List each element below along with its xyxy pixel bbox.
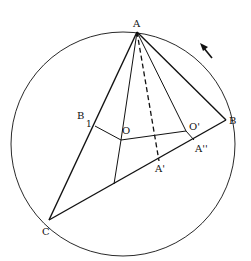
label-B1: B [77,110,84,121]
label-O: O [122,125,130,136]
label-C: C [42,226,50,237]
segment-O-prime-A-double-prime [186,131,194,140]
label-A-prime: A' [154,163,165,174]
label-B1-subscript: 1 [86,119,92,129]
label-A: A [132,18,141,29]
segment-O-to-CB [114,140,121,184]
geometry-diagram: A B C B 1 O O' A' A'' [0,0,251,261]
rotation-arrow-icon [200,43,212,58]
label-A-double-prime: A'' [194,143,208,154]
segment-B1-O [95,126,121,140]
segment-O-O-prime [121,131,186,140]
label-B: B [229,115,236,126]
side-CB [49,120,226,220]
label-O-prime: O' [189,121,200,132]
